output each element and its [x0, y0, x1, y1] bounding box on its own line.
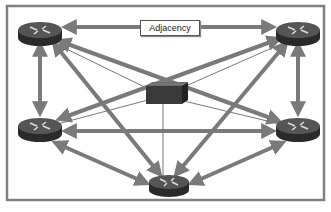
ospf-adjacency-diagram: Adjacency [0, 0, 331, 212]
router-icon-r3 [18, 118, 62, 142]
switch-icon [146, 82, 188, 104]
router-icon-r5 [149, 175, 189, 197]
adjacency-label: Adjacency [140, 20, 200, 36]
router-icon-r4 [276, 118, 320, 142]
router-icon-r2 [276, 22, 320, 46]
router-icon-r1 [18, 22, 62, 46]
